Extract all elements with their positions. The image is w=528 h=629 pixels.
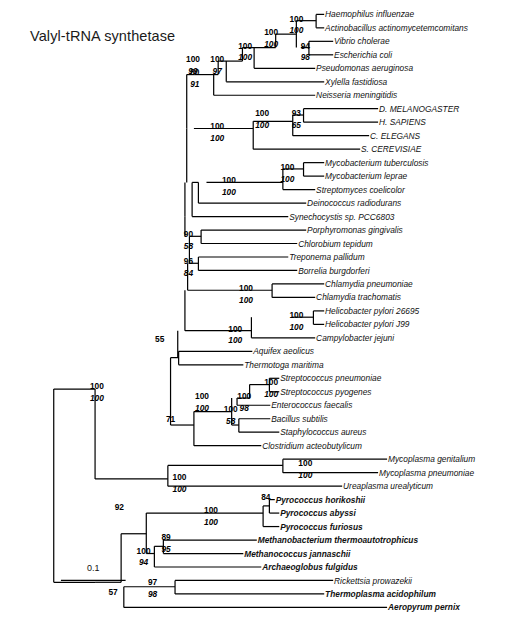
bootstrap-top-n-archaea: 92 [115, 502, 125, 512]
bootstrap-top-n-pyro-pair: 84 [261, 492, 271, 502]
bootstrap-bottom-n-bacteria-root: 99 [188, 66, 198, 76]
taxon-label-rickettsia: Rickettsia prowazekii [334, 576, 413, 586]
bootstrap-top-n-actinob: 100 [222, 175, 236, 185]
bootstrap-bottom-n-epsilon: 100 [228, 335, 242, 345]
bootstrap-top-n-lacto: 100 [237, 391, 251, 401]
phylogenetic-tree-figure: Valyl-tRNA synthetase Haemophilus influe… [0, 0, 528, 629]
taxon-label-xylella: Xylella fastidiosa [324, 77, 388, 87]
taxon-label-mgenitalium: Mycoplasma genitalium [388, 454, 475, 464]
taxon-label-methanococcus: Methanococcus jannaschii [244, 549, 351, 559]
taxon-label-celegans: C. ELEGANS [370, 131, 421, 141]
bootstrap-bottom-n-lacto: 98 [240, 403, 250, 413]
bootstrap-top-n-spiro: 96 [184, 256, 194, 266]
bootstrap-bottom-n-myco: 100 [280, 174, 294, 184]
bootstrap-bottom-n-haem-actino: 100 [289, 25, 303, 35]
bootstrap-bottom-n-bacill-staph: 58 [226, 416, 236, 426]
bootstrap-bottom-n-euk: 100 [210, 133, 224, 143]
taxon-label-drosophila: D. MELANOGASTER [379, 104, 459, 114]
bootstrap-bottom-n-spiro: 84 [184, 268, 194, 278]
bootstrap-top-n-root-bact: 100 [90, 381, 104, 391]
bootstrap-bottom-n-vibrio-ecoli: 98 [301, 52, 311, 62]
bootstrap-bottom-n-proteo: 97 [213, 66, 223, 76]
bootstrap-top-n-haem-actino: 100 [289, 14, 303, 24]
taxon-label-actinobacillus: Actinobacillus actinomycetemcomitans [324, 23, 468, 33]
taxon-label-human: H. SAPIENS [379, 117, 426, 127]
taxon-label-porphyromonas: Porphyromonas gingivalis [307, 225, 403, 235]
taxon-label-pseudomonas: Pseudomonas aeruginosa [316, 63, 413, 73]
taxon-label-borrelia: Borrelia burgdorferi [298, 266, 371, 276]
bootstrap-top-n-porph-chlor: 90 [184, 229, 194, 239]
tree-taxon-labels: Haemophilus influenzaeActinobacillus act… [244, 9, 475, 612]
bootstrap-top-n-epsilon: 100 [228, 324, 242, 334]
bootstrap-bottom-n-firmicutes: 100 [195, 403, 209, 413]
taxon-label-staphylococcus: Staphylococcus aureus [280, 427, 366, 437]
bootstrap-top-n-vibrio-ecoli: 94 [301, 41, 311, 51]
taxon-label-vibrio: Vibrio cholerae [334, 36, 390, 46]
taxon-label-treponema: Treponema pallidum [289, 252, 364, 262]
taxon-label-aeropyrum: Aeropyrum pernix [387, 602, 460, 612]
bootstrap-bottom-n-methano: 95 [161, 544, 171, 554]
taxon-label-mpneumoniae: Mycoplasma pneumoniae [379, 468, 474, 478]
bootstrap-top-n-proteo: 100 [210, 54, 224, 64]
bootstrap-bottom-n-pyrococcus: 100 [204, 517, 218, 527]
bootstrap-top-n-mollicutes: 100 [173, 472, 187, 482]
bootstrap-top-n-rick-thermo: 97 [148, 577, 158, 587]
bootstrap-bottom-n-gamma: 100 [238, 52, 252, 62]
taxon-label-campylobacter: Campylobacter jejuni [316, 333, 395, 343]
figure-title: Valyl-tRNA synthetase [30, 28, 175, 44]
taxon-label-chlorobium: Chlorobium tepidum [298, 239, 373, 249]
taxon-label-pabyssi: Pyrococcus abyssi [280, 508, 356, 518]
bootstrap-top-n-root-arch: 57 [108, 587, 118, 597]
scale-bar-label: 0.1 [87, 563, 99, 573]
bootstrap-bottom-n-root-bact: 100 [90, 393, 104, 403]
taxon-label-aquifex: Aquifex aeolicus [252, 346, 314, 356]
bootstrap-top-n-archaea-eury: 100 [137, 546, 151, 556]
bootstrap-top-n-pyrococcus: 100 [204, 505, 218, 515]
bootstrap-top-n-gamma: 100 [238, 41, 252, 51]
taxon-label-yeast: S. CEREVISIAE [361, 144, 422, 154]
tree-support-values: 1001001001009498100100100978091100999365… [90, 14, 313, 599]
taxon-label-spneumoniae: Streptococcus pneumoniae [280, 373, 381, 383]
bootstrap-top-n-clostridium: 71 [166, 414, 176, 424]
taxon-label-hpylori26695: Helicobacter pylori 26695 [325, 306, 420, 316]
taxon-label-hpylorij99: Helicobacter pylori J99 [325, 319, 410, 329]
bootstrap-top-n-chlamydia: 100 [239, 283, 253, 293]
taxon-label-thermoplasma: Thermoplasma acidophilum [325, 589, 436, 599]
taxon-label-mtuberculosis: Mycobacterium tuberculosis [325, 158, 428, 168]
taxon-label-spyogenes: Streptococcus pyogenes [280, 387, 371, 397]
taxon-label-phorikoshii: Pyrococcus horikoshii [276, 495, 366, 505]
taxon-label-synechocystis: Synechocystis sp. PCC6803 [289, 212, 395, 222]
taxon-label-ureaplasma: Ureaplasma urealyticum [343, 481, 433, 491]
bootstrap-top-n-myco: 100 [280, 162, 294, 172]
bootstrap-top-n-hpylori: 100 [289, 310, 303, 320]
taxon-label-archaeoglobus: Archaeoglobus fulgidus [261, 562, 358, 572]
taxon-label-clostridium: Clostridium acteobutylicum [262, 441, 362, 451]
bootstrap-bottom-n-chlamydia: 100 [239, 295, 253, 305]
bootstrap-bottom-n-proteo-beta: 91 [190, 79, 200, 89]
taxon-label-escherichia: Escherichia coli [334, 50, 393, 60]
bootstrap-top-n-mycoplasma: 100 [298, 458, 312, 468]
bootstrap-bottom-n-rick-thermo: 98 [148, 589, 158, 599]
bootstrap-top-n-euk: 100 [210, 121, 224, 131]
bootstrap-top-n-bacteria-root: 100 [186, 54, 200, 64]
bootstrap-bottom-n-hpylori: 100 [289, 322, 303, 332]
bootstrap-top-n-dm-hs: 93 [292, 108, 302, 118]
bootstrap-bottom-n-strepto: 100 [264, 389, 278, 399]
taxon-label-streptomyces: Streptomyces coelicolor [316, 185, 406, 195]
bootstrap-bottom-n-mollicutes: 100 [173, 484, 187, 494]
taxon-label-neisseria: Neisseria meningitidis [316, 90, 397, 100]
taxon-label-mleprae: Mycobacterium leprae [325, 171, 407, 181]
bootstrap-top-n-bact-deep: 55 [155, 334, 165, 344]
bootstrap-bottom-n-porph-chlor: 58 [184, 241, 194, 251]
bootstrap-bottom-n-dm-hs: 65 [292, 120, 302, 130]
taxon-label-bacillus: Bacillus subtilis [271, 414, 328, 424]
bootstrap-bottom-n-archaea-eury: 94 [139, 557, 149, 567]
bootstrap-top-n-strepto: 100 [264, 377, 278, 387]
taxon-label-pfuriosus: Pyrococcus furiosus [280, 522, 363, 532]
taxon-label-cpneumoniae: Chlamydia pneumoniae [325, 279, 413, 289]
taxon-label-haemophilus: Haemophilus influenzae [325, 9, 414, 19]
bootstrap-top-n-enterobact: 100 [264, 27, 278, 37]
bootstrap-bottom-n-animals: 100 [255, 120, 269, 130]
taxon-label-enterococcus: Enterococcus faecalis [271, 400, 352, 410]
scale-bar: 0.1 [61, 563, 126, 580]
